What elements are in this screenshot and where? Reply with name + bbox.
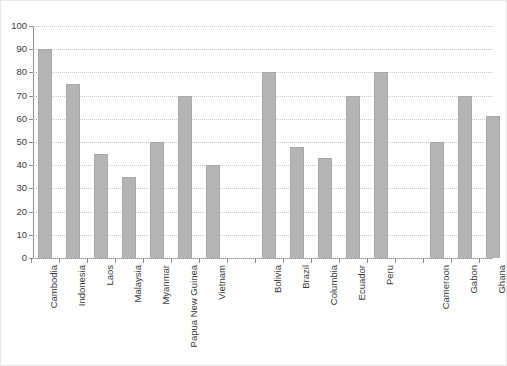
x-tick-mark [31, 258, 32, 263]
bar [122, 177, 136, 258]
x-tick-mark [451, 258, 452, 263]
chart-page: 0102030405060708090100 CambodiaIndonesia… [0, 0, 507, 366]
bar-chart: 0102030405060708090100 CambodiaIndonesia… [1, 1, 507, 366]
x-tick-label: Gabon [469, 265, 479, 294]
x-tick-label: Ghana [497, 265, 507, 294]
y-tick-label: 10 [1, 230, 27, 240]
x-tick-label: Columbia [329, 265, 339, 305]
x-tick-label: Myanmar [161, 265, 171, 305]
x-tick-label: Vietnam [217, 265, 227, 300]
x-tick-mark [143, 258, 144, 263]
bar [206, 165, 220, 258]
bar [318, 158, 332, 258]
x-tick-mark [479, 258, 480, 263]
x-tick-label: Laos [105, 265, 115, 286]
x-tick-mark [367, 258, 368, 263]
bar [38, 49, 52, 258]
bar [150, 142, 164, 258]
x-tick-mark [171, 258, 172, 263]
x-tick-mark [115, 258, 116, 263]
y-tick-label: 60 [1, 114, 27, 124]
y-tick-label: 50 [1, 137, 27, 147]
y-tick-label: 30 [1, 183, 27, 193]
bar [290, 147, 304, 258]
x-tick-label: Peru [385, 265, 395, 285]
x-tick-label: Ecuador [357, 265, 367, 300]
x-tick-mark [395, 258, 396, 263]
bar [262, 72, 276, 258]
y-tick-label: 100 [1, 21, 27, 31]
bar [94, 154, 108, 258]
x-tick-label: Papua New Guinea [189, 265, 199, 347]
y-tick-label: 80 [1, 67, 27, 77]
x-tick-label: Malaysia [133, 265, 143, 303]
x-tick-mark [423, 258, 424, 263]
y-tick-label: 0 [1, 253, 27, 263]
bars-layer [33, 26, 493, 258]
x-tick-mark [227, 258, 228, 263]
x-tick-mark [87, 258, 88, 263]
x-tick-mark [311, 258, 312, 263]
x-tick-mark [339, 258, 340, 263]
y-tick-label: 90 [1, 44, 27, 54]
y-tick-label: 20 [1, 207, 27, 217]
bar [486, 116, 500, 258]
x-tick-mark [255, 258, 256, 263]
x-tick-label: Indonesia [77, 265, 87, 306]
bar [346, 96, 360, 258]
x-tick-mark [283, 258, 284, 263]
x-tick-label: Cameroon [441, 265, 451, 309]
bar [178, 96, 192, 258]
y-tick-label: 70 [1, 91, 27, 101]
x-tick-mark [199, 258, 200, 263]
x-tick-label: Bolivia [273, 265, 283, 293]
x-tick-label: Brazil [301, 265, 311, 289]
bar [66, 84, 80, 258]
y-tick-label: 40 [1, 160, 27, 170]
x-tick-mark [59, 258, 60, 263]
bar [374, 72, 388, 258]
x-tick-label: Cambodia [49, 265, 59, 308]
gridline [33, 258, 493, 259]
bar [458, 96, 472, 258]
bar [430, 142, 444, 258]
